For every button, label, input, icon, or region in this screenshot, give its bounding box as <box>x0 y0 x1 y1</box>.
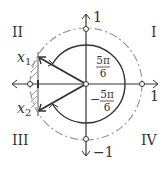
x-right-label: 1 <box>150 88 159 104</box>
x2-label: x2 <box>17 100 31 118</box>
svg-text:5π: 5π <box>100 88 114 100</box>
angle-upper: 5π 6 <box>96 54 110 79</box>
y-bottom-label: −1 <box>93 144 114 160</box>
angle-lower: − 5π 6 <box>90 88 114 113</box>
ray-x1 <box>40 58 86 84</box>
quadrant-label-ii: II <box>12 24 23 40</box>
x1-label: x1 <box>17 49 31 67</box>
svg-text:6: 6 <box>100 67 107 79</box>
quadrant-label-i: I <box>151 24 157 40</box>
quadrant-label-iv: IV <box>141 132 158 148</box>
quadrant-label-iii: III <box>12 132 29 148</box>
point-left <box>28 82 33 87</box>
point-bottom <box>84 137 89 142</box>
svg-text:5π: 5π <box>96 54 110 66</box>
point-top <box>84 27 89 32</box>
origin-point <box>84 82 89 87</box>
svg-text:6: 6 <box>104 101 111 113</box>
point-right <box>140 82 145 87</box>
svg-text:−: − <box>90 92 100 106</box>
ray-x2 <box>40 84 86 110</box>
unit-circle-diagram: II I III IV 1 1 −1 x1 x2 5π 6 − 5π 6 <box>0 0 167 169</box>
y-top-label: 1 <box>93 9 102 25</box>
